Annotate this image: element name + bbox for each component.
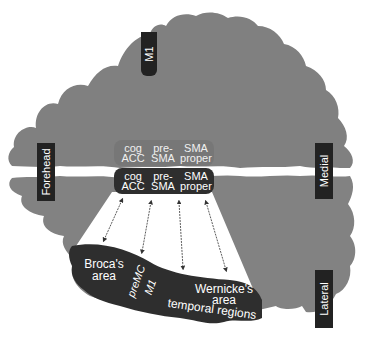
- label-cog-acc-upper: cog ACC: [118, 143, 148, 163]
- label-presma-upper: pre- SMA: [148, 143, 178, 163]
- label-sma-proper-upper: SMA proper: [178, 143, 214, 163]
- label-lateral: Lateral: [315, 270, 333, 328]
- label-cog-acc-lower: cog ACC: [118, 171, 148, 191]
- label-m1-top: M1: [141, 32, 157, 76]
- label-medial: Medial: [315, 143, 333, 199]
- label-brocas-area: Broca's area: [82, 258, 126, 282]
- brain-diagram: M1 Forehead Medial Lateral cog ACC pre- …: [0, 0, 368, 339]
- label-sma-proper-lower: SMA proper: [178, 171, 214, 191]
- label-presma-lower: pre- SMA: [148, 171, 178, 191]
- label-forehead: Forehead: [37, 143, 55, 201]
